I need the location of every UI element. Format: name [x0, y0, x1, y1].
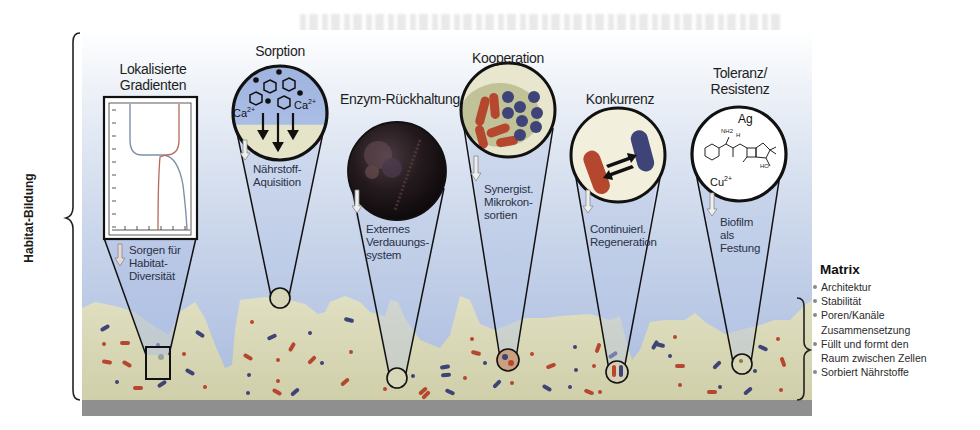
substrate-surface: [82, 400, 812, 416]
amine-group-label: NH2: [721, 128, 733, 135]
hydrogen-label: H: [736, 132, 740, 139]
habitat-brace: [66, 33, 80, 400]
silver-ion-label: Ag: [738, 113, 753, 126]
caption-enzyme: Externes Verdauungs- system: [366, 223, 429, 262]
matrix-item: Zusammensetzung: [812, 323, 927, 337]
hydroxyl-label: HO: [760, 163, 769, 170]
title-tolerance: Toleranz/ Resistenz: [700, 66, 780, 97]
matrix-legend: Matrix Architektur Stabilität Poren/Kanä…: [812, 262, 927, 379]
matrix-item: Füllt und formt den: [812, 337, 927, 351]
habitat-formation-label: Habitat-Bildung: [22, 173, 36, 262]
title-competition: Konkurrenz: [575, 92, 665, 108]
title-gradients: Lokalisierte Gradienten: [103, 62, 203, 93]
title-sorption: Sorption: [240, 44, 320, 60]
matrix-item: Raum zwischen Zellen: [812, 351, 927, 365]
caption-sorption: Nährstoff- Aquisition: [253, 163, 301, 189]
title-enzyme: Enzym-Rückhaltung: [335, 92, 465, 108]
matrix-item: Sorbiert Nährstoffe: [812, 365, 927, 379]
caption-competition: Continuierl. Regeneration: [590, 223, 657, 249]
calcium-ion-label-left: Ca2+: [233, 106, 255, 119]
matrix-item: Poren/Kanäle: [812, 308, 927, 322]
matrix-title: Matrix: [820, 262, 927, 277]
matrix-item: Stabilität: [812, 294, 927, 308]
copper-ion-label: Cu2+: [710, 175, 732, 188]
caption-gradients: Sorgen für Habitat- Diversität: [129, 244, 181, 283]
calcium-ion-label-right: Ca2+: [294, 98, 316, 111]
title-cooperation: Kooperation: [463, 51, 553, 67]
matrix-properties-list: Architektur Stabilität Poren/Kanäle Zusa…: [812, 280, 927, 379]
caption-tolerance: Biofilm als Festung: [720, 216, 760, 255]
matrix-item: Architektur: [812, 280, 927, 294]
biofilm-diagram: Habitat-Bildung Lokalisierte Gradienten …: [0, 0, 980, 430]
caption-cooperation: Synergist. Mikrokon- sortien: [484, 183, 533, 222]
